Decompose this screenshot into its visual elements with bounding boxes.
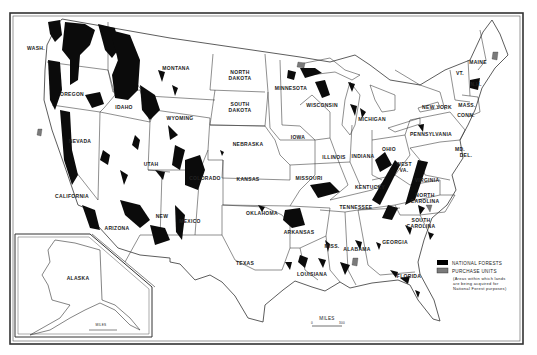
state-label: ALASKA [67, 275, 90, 281]
scale-bar: MILES 0 300 [311, 316, 345, 326]
state-borders [47, 22, 486, 285]
state-label: ALABAMA [343, 246, 370, 252]
state-label: VIRGINIA [415, 177, 440, 183]
state-label: DEL. [460, 152, 473, 158]
state-label: DAKOTA [229, 75, 252, 81]
state-label: MASS. [458, 102, 476, 108]
state-label: KANSAS [237, 176, 260, 182]
great-lakes [300, 58, 440, 135]
state-label: WYOMING [166, 115, 193, 121]
scale-bar-label: MILES [319, 316, 334, 321]
state-label: COLORADO [189, 175, 221, 181]
state-label: VT. [456, 70, 464, 76]
legend: NATIONAL FORESTS PURCHASE UNITS (Areas w… [437, 260, 507, 291]
national-forests-map: WASH.OREGONCALIFORNIANEVADAIDAHOMONTANAW… [0, 0, 537, 355]
state-label: LOUISIANA [297, 271, 327, 277]
scale-bar-start: 0 [311, 321, 313, 325]
state-label: UTAH [144, 161, 159, 167]
state-label: IDAHO [115, 104, 133, 110]
state-label: CAROLINA [411, 198, 440, 204]
state-label: NEBRASKA [233, 141, 264, 147]
state-label: FLORIDA [397, 273, 421, 279]
state-label: INDIANA [352, 153, 375, 159]
state-label: MINNESOTA [275, 85, 307, 91]
state-label: OREGON [60, 91, 84, 97]
state-label: TENNESSEE [340, 204, 373, 210]
legend-swatch-national-forests [437, 260, 448, 265]
inset-scale-bar-label: MILES [95, 323, 106, 327]
state-label: OKLAHOMA [246, 210, 278, 216]
legend-label-national-forests: NATIONAL FORESTS [452, 261, 502, 266]
state-label: IOWA [291, 134, 306, 140]
state-label: TEXAS [236, 260, 255, 266]
alaska-inset-frame [15, 234, 152, 337]
state-label: PENNSYLVANIA [410, 131, 452, 137]
state-label: ARIZONA [105, 225, 130, 231]
state-label: MISS. [324, 243, 339, 249]
state-label: MEXICO [179, 218, 201, 224]
state-label: NEW YORK [422, 104, 452, 110]
legend-swatch-purchase-units [437, 268, 448, 273]
state-label: KENTUCKY [355, 184, 386, 190]
state-label: ILLINOIS [322, 154, 346, 160]
state-label: WISCONSIN [306, 102, 338, 108]
scale-bar-end: 300 [339, 321, 345, 325]
state-label: NEW [156, 213, 169, 219]
state-label: MICHIGAN [358, 116, 386, 122]
legend-label-purchase-units: PURCHASE UNITS [452, 269, 497, 274]
state-label: DAKOTA [229, 107, 252, 113]
state-label: NEVADA [69, 138, 92, 144]
state-label: ARKANSAS [284, 229, 315, 235]
state-label: N.H. [470, 81, 482, 87]
state-label: VA. [400, 167, 409, 173]
legend-note-line-3: National Forest purposes) [453, 286, 507, 291]
state-label: MONTANA [162, 65, 189, 71]
alaska-inset [15, 234, 155, 337]
state-label: CAROLINA [407, 223, 436, 229]
state-label: GEORGIA [382, 239, 408, 245]
state-label: WASH. [27, 45, 45, 51]
state-label: CALIFORNIA [55, 193, 89, 199]
state-label: MISSOURI [295, 175, 322, 181]
state-label: CONN. [457, 112, 475, 118]
state-label: OHIO [382, 146, 396, 152]
state-label: MAINE [469, 59, 487, 65]
